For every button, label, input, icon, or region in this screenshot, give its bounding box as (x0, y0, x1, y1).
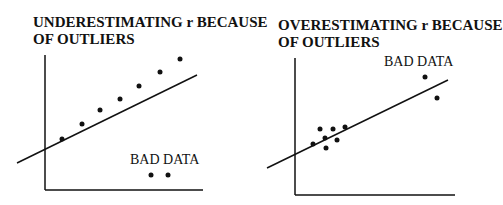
regression-line (17, 75, 197, 163)
outlier-points (149, 173, 171, 178)
regression-line (267, 80, 448, 168)
data-points (60, 57, 183, 142)
right-plot (267, 58, 455, 195)
left-plot (17, 55, 203, 190)
